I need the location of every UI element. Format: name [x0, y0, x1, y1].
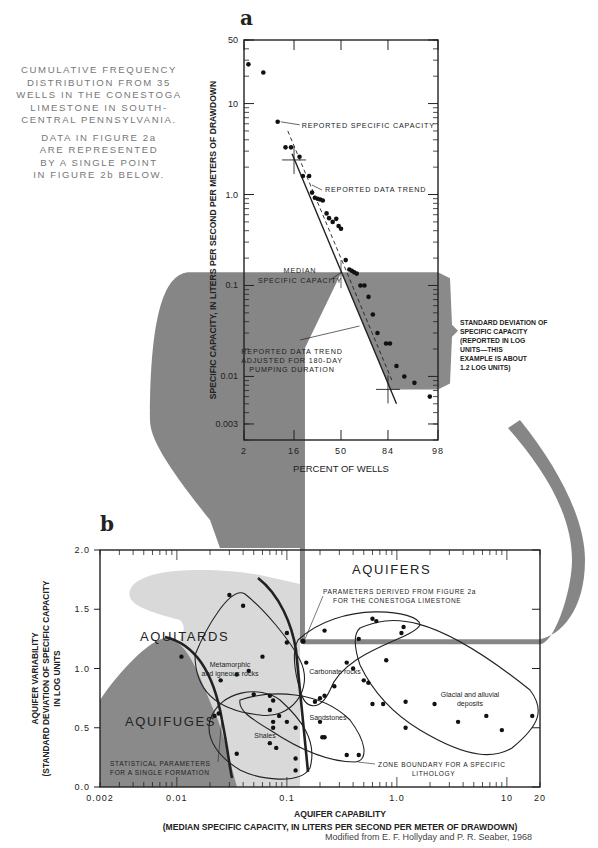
data-point — [285, 720, 289, 724]
sd-note-line: (REPORTED IN LOG — [460, 337, 525, 345]
group-label: and igneous rocks — [202, 670, 259, 678]
annotation-leader — [305, 596, 323, 639]
annotation-reported-trend: REPORTED DATA TREND — [325, 185, 426, 194]
data-point — [366, 295, 371, 300]
x-tick-label: 0.01 — [166, 793, 188, 803]
conestoga-point — [300, 639, 305, 644]
sd-note-line: EXAMPLE IS ABOUT — [460, 355, 528, 362]
data-point — [313, 699, 317, 703]
data-point — [241, 603, 245, 607]
y-tick-label: 0.1 — [225, 280, 238, 290]
data-point — [345, 660, 349, 664]
data-point — [357, 753, 361, 757]
x-tick-label: 0.1 — [279, 793, 295, 803]
data-point — [293, 726, 297, 730]
data-point — [268, 708, 272, 712]
data-point — [366, 681, 370, 685]
data-point — [332, 684, 336, 688]
data-point — [235, 752, 239, 756]
data-point — [428, 394, 433, 399]
data-point — [330, 220, 335, 225]
data-point — [530, 714, 534, 718]
data-point — [362, 678, 366, 682]
data-point — [260, 654, 264, 658]
x-tick-label: 1.0 — [389, 793, 405, 803]
y-tick-label: 2.0 — [74, 545, 90, 555]
data-point — [274, 746, 278, 750]
data-point — [357, 637, 361, 641]
x-tick-label: 84 — [382, 446, 394, 456]
data-point — [432, 702, 436, 706]
x-tick-label: 50 — [335, 446, 347, 456]
annotation-single-2: FOR A SINGLE FORMATION — [110, 769, 210, 776]
y-tick-label: 0.003 — [215, 419, 238, 429]
data-point — [371, 312, 376, 317]
y-tick-label: 50 — [228, 35, 238, 45]
x-tick-label: 98 — [432, 446, 444, 456]
data-point — [285, 640, 289, 644]
annotation-parameters-1: PARAMETERS DERIVED FROM FIGURE 2a — [323, 588, 476, 595]
annotation-zone-2: LITHOLOGY — [412, 770, 455, 777]
zone-label-aquitards: AQUITARDS — [140, 629, 229, 644]
y-tick-label: 1.5 — [74, 604, 90, 614]
y-tick-label: 1.0 — [225, 190, 238, 200]
data-point — [500, 728, 504, 732]
sd-note-line: SPECIFIC CAPACITY — [460, 328, 528, 335]
x-axis-label: PERCENT OF WELLS — [293, 463, 389, 474]
x-tick-label: 16 — [288, 446, 300, 456]
data-point — [322, 628, 326, 632]
sd-note-line: UNITS—THIS — [460, 346, 503, 353]
annotation-zone-1: ZONE BOUNDARY FOR A SPECIFIC — [378, 761, 506, 768]
y-axis-label: AQUIFER VARIABILITY — [30, 632, 40, 724]
outline-carbonate — [294, 612, 420, 706]
x-tick-label: 20 — [534, 793, 546, 803]
annotation-adjusted-1: REPORTED DATA TREND — [241, 347, 342, 356]
data-point — [321, 198, 326, 203]
group-label: Carbonate rocks — [309, 668, 361, 675]
annotation-adjusted-3: PUMPING DURATION — [249, 365, 334, 374]
data-point — [304, 660, 308, 664]
data-point — [339, 226, 344, 231]
data-point — [268, 741, 272, 745]
data-point — [271, 720, 275, 724]
data-point — [252, 692, 256, 696]
data-point — [456, 720, 460, 724]
sd-note-line: 1.2 LOG UNITS) — [460, 364, 511, 372]
y-tick-label: 1.0 — [74, 664, 90, 674]
group-label: deposits — [457, 700, 484, 708]
group-label: Sandstones — [310, 714, 347, 721]
data-point — [322, 694, 326, 698]
data-point — [354, 271, 359, 276]
annotation-leader — [281, 122, 300, 125]
data-point — [322, 735, 326, 739]
y-tick-label: 0.0 — [74, 782, 90, 792]
data-point — [268, 694, 272, 698]
group-label: Metamorphic — [210, 661, 251, 669]
data-point — [318, 696, 322, 700]
y-tick-label: 10 — [228, 99, 238, 109]
annotation-leader — [312, 185, 322, 190]
data-point — [218, 678, 222, 682]
x-axis-sublabel: (MEDIAN SPECIFIC CAPACITY, IN LITERS PER… — [163, 822, 518, 832]
data-point — [402, 374, 407, 379]
group-label: Shales — [254, 732, 276, 739]
data-point — [227, 593, 231, 597]
data-point — [289, 145, 294, 150]
figure-canvas: 0.00.51.01.52.00.0020.010.11.01020AQUIFE… — [0, 0, 598, 848]
annotation-adjusted-2: ADJUSTED FOR 180-DAY — [241, 356, 343, 365]
sd-shaded-region — [341, 272, 458, 389]
y-axis-label: (STANDARD DEVIATION OF SPECIFIC CAPACITY — [41, 580, 51, 776]
data-point — [334, 217, 339, 222]
data-point — [345, 753, 349, 757]
annotation-reported-capacity: REPORTED SPECIFIC CAPACITY — [302, 121, 435, 130]
x-tick-label: 2 — [241, 446, 247, 456]
data-point — [484, 714, 488, 718]
data-point — [343, 258, 348, 263]
data-point — [217, 711, 221, 715]
sd-note-line: STANDARD DEVIATION OF — [460, 319, 547, 326]
data-point — [297, 154, 302, 159]
data-point — [275, 120, 280, 125]
data-point — [307, 174, 312, 179]
data-point — [301, 174, 306, 179]
annotation-leader — [358, 762, 375, 764]
